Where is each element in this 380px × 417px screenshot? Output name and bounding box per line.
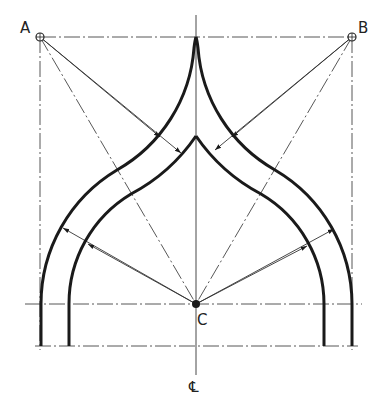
- inner-arch-left: [69, 136, 196, 346]
- construction-lines: [25, 15, 362, 375]
- centerline-symbol: ℄: [188, 378, 199, 396]
- label-a: A: [20, 19, 31, 37]
- ogee-arch-drawing: A B C ℄: [0, 0, 380, 417]
- inner-arch-right: [196, 136, 324, 346]
- center-point-c-icon: [192, 300, 200, 308]
- outer-arch-left: [41, 37, 196, 346]
- radius-b-inner: [215, 37, 352, 150]
- radius-c-left-inner: [88, 244, 196, 304]
- arch-outlines: [41, 37, 352, 346]
- outer-arch-right: [196, 37, 352, 346]
- label-b: B: [358, 19, 368, 37]
- label-c: C: [197, 311, 207, 329]
